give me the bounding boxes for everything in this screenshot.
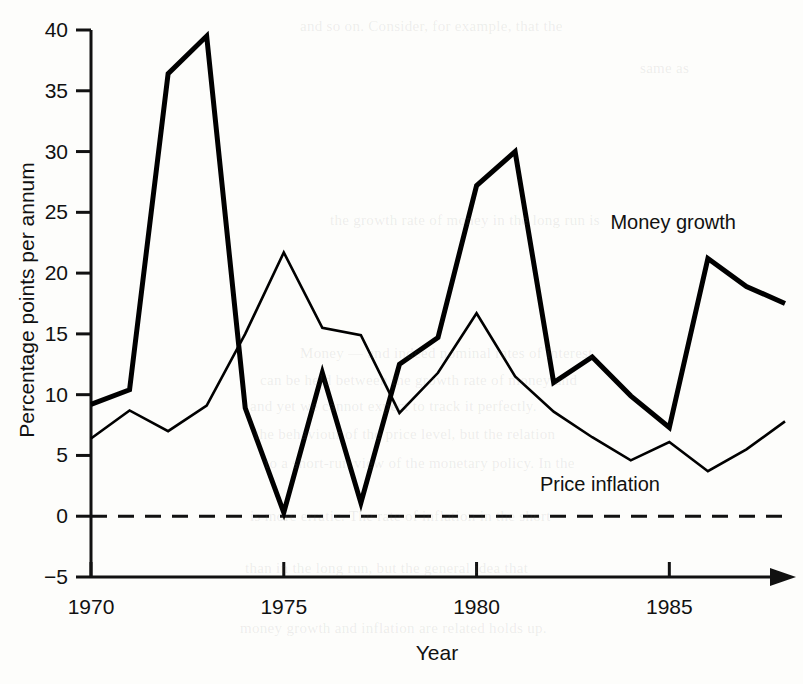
y-axis-tick-label: 35 [45,79,68,102]
series-annotations: Money growthPrice inflation [540,211,736,494]
y-axis-ticks [76,30,91,577]
chart-root: and so on. Consider, for example, that t… [0,0,803,684]
y-axis-tick-label: 0 [56,504,68,527]
x-axis-tick-label: 1985 [646,595,693,618]
y-axis-tick-label: 10 [45,383,68,406]
x-axis-title: Year [416,641,458,664]
x-axis-tick-label: 1975 [260,595,307,618]
series-line-money-growth [91,36,785,513]
x-axis-ticks [91,562,669,577]
x-axis-arrow-icon [770,568,796,586]
x-axis-tick-label: 1970 [68,595,115,618]
y-axis-tick-label: 25 [45,200,68,223]
y-axis-tick-label: 20 [45,261,68,284]
y-axis-tick-label: 5 [56,443,68,466]
y-axis: 4035302520151050−5 Percentage points per… [15,18,91,588]
x-axis: 1970197519801985 Year [68,562,796,664]
data-series-group [91,36,785,513]
x-axis-tick-labels: 1970197519801985 [68,595,693,618]
series-label-money-growth: Money growth [610,211,736,233]
y-axis-tick-label: −5 [44,565,68,588]
y-axis-title: Percentage points per annum [15,162,38,438]
series-line-price-inflation [91,252,785,471]
y-axis-tick-label: 15 [45,322,68,345]
line-chart: 4035302520151050−5 Percentage points per… [0,0,803,684]
y-axis-tick-label: 40 [45,18,68,41]
x-axis-tick-label: 1980 [453,595,500,618]
series-label-price-inflation: Price inflation [540,473,660,495]
y-axis-tick-label: 30 [45,140,68,163]
y-axis-tick-labels: 4035302520151050−5 [44,18,68,588]
